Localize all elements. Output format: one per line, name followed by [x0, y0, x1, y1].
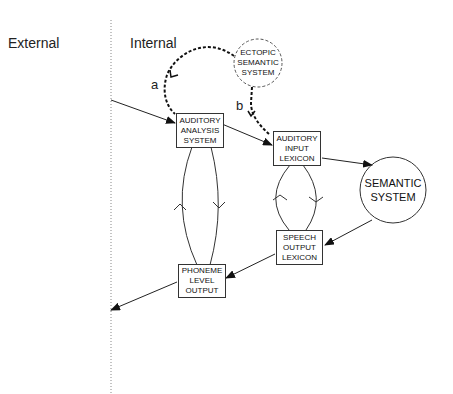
output-arrow [111, 282, 177, 310]
arrow-speech-to-phoneme [226, 254, 275, 278]
input-arrow [111, 100, 175, 123]
route-a-label: a [151, 77, 158, 92]
internal-label: Internal [130, 35, 177, 51]
external-label: External [8, 35, 59, 51]
node-phoneme-level-output: PHONEME LEVEL OUTPUT [178, 264, 226, 298]
route-a-path [165, 47, 234, 114]
arrow-analysis-to-lexicon [222, 124, 272, 145]
node-auditory-input-lexicon: AUDITORY INPUT LEXICON [273, 131, 321, 166]
node-semantic-system: SEMANTIC SYSTEM [360, 172, 426, 208]
arrow-lexicon-to-semantic [322, 158, 372, 165]
arrow-semantic-to-speech [325, 220, 372, 245]
route-b-path [251, 87, 270, 135]
node-speech-output-lexicon: SPEECH OUTPUT LEXICON [276, 230, 323, 265]
loop-left-up [182, 147, 197, 265]
route-b-label: b [236, 98, 243, 113]
node-auditory-analysis-system: AUDITORY ANALYSIS SYSTEM [176, 113, 224, 148]
node-ectopic-semantic-system: ECTOPIC SEMANTIC SYSTEM [234, 48, 282, 78]
